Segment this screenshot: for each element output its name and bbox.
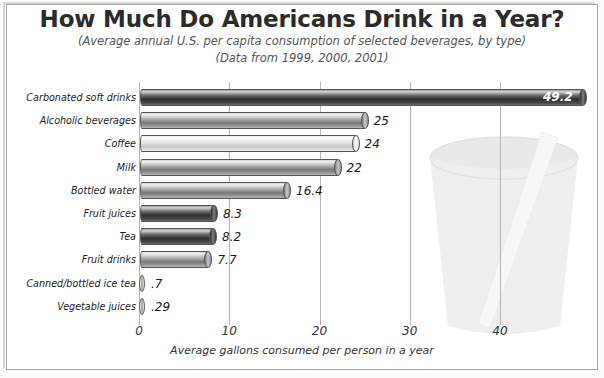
category-label: Bottled water	[3, 185, 136, 196]
bar-end-cap	[283, 182, 291, 199]
bar-value-label: 25	[374, 114, 389, 128]
bar-end-cap	[204, 251, 212, 268]
bar	[139, 275, 145, 292]
bar-value-label: 24	[365, 137, 380, 151]
bar-end-cap	[579, 89, 587, 106]
bar-value-label: 16.4	[296, 184, 323, 198]
bar	[140, 159, 339, 176]
bar	[140, 228, 214, 245]
category-label: Tea	[3, 231, 136, 242]
bar-end-cap	[334, 159, 342, 176]
bar-value-label: .7	[151, 277, 162, 291]
bar-value-label: 8.2	[222, 230, 241, 244]
category-label: Carbonated soft drinks	[3, 92, 136, 103]
category-label: Alcoholic beverages	[3, 115, 136, 126]
bar	[140, 205, 215, 222]
bar	[140, 182, 288, 199]
gridline-40	[500, 82, 501, 325]
category-label: Vegetable juices	[3, 301, 136, 312]
category-label: Milk	[3, 162, 136, 173]
bar-value-label: 49.2	[543, 90, 573, 104]
category-label: Coffee	[3, 138, 136, 149]
category-label: Canned/bottled ice tea	[3, 278, 136, 289]
x-tick-label-0: 0	[135, 324, 143, 338]
chart-figure: How Much Do Americans Drink in a Year? (…	[0, 0, 604, 378]
gridline-30	[410, 82, 411, 325]
bar-end-cap	[210, 205, 218, 222]
bar	[140, 112, 366, 129]
x-tick-label-40: 40	[492, 324, 507, 338]
bar-end-cap	[352, 135, 360, 152]
bar-value-label: 8.3	[223, 207, 242, 221]
bar-value-label: 7.7	[217, 253, 236, 267]
bar	[140, 135, 357, 152]
bar	[140, 251, 209, 268]
bar-value-label: 22	[347, 161, 362, 175]
bar	[140, 89, 584, 106]
bar-end-cap	[361, 112, 369, 129]
category-label: Fruit juices	[3, 208, 136, 219]
category-label: Fruit drinks	[3, 254, 136, 265]
x-tick-label-20: 20	[312, 324, 327, 338]
bar	[139, 298, 145, 315]
x-tick-label-30: 30	[402, 324, 417, 338]
x-tick-label-10: 10	[222, 324, 237, 338]
bar-end-cap	[209, 228, 217, 245]
x-axis-title: Average gallons consumed per person in a…	[0, 344, 604, 357]
plot-area: 010203040 Carbonated soft drinks49.2Alco…	[0, 0, 604, 378]
bar-value-label: .29	[151, 300, 170, 314]
